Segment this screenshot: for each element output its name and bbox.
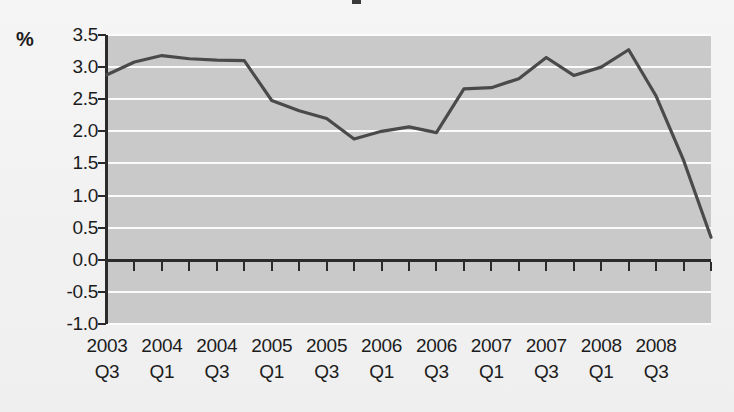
- y-axis-tick-label: -1.0: [66, 313, 98, 335]
- cropped-title-fragment: [352, 0, 361, 4]
- x-axis-tick-labels: 2003Q32004Q12004Q32005Q12005Q32006Q12006…: [107, 333, 711, 403]
- y-axis-tick-mark: [98, 323, 106, 325]
- x-axis-tick-label-year: 2007: [526, 335, 567, 356]
- x-axis-tick-label-year: 2006: [416, 335, 457, 356]
- y-axis-tick-label: 3.0: [72, 56, 98, 78]
- y-axis-tick-mark: [98, 66, 106, 68]
- data-series-line: [107, 50, 711, 238]
- x-axis-tick-label-year: 2007: [471, 335, 512, 356]
- y-axis-tick-mark: [98, 34, 106, 36]
- y-axis-tick-mark: [98, 195, 106, 197]
- x-axis-tick-label-year: 2006: [361, 335, 402, 356]
- x-axis-tick-label-year: 2005: [251, 335, 292, 356]
- x-axis-tick-label-year: 2008: [636, 335, 677, 356]
- x-axis-tick-label-year: 2004: [196, 335, 237, 356]
- x-axis-tick-label-year: 2003: [86, 335, 127, 356]
- y-axis-tick-labels: 3.53.02.52.01.51.00.50.0-0.5-1.0: [28, 35, 98, 324]
- y-axis-tick-mark: [98, 227, 106, 229]
- y-axis-tick-mark: [98, 259, 106, 261]
- y-axis-tick-label: 1.0: [72, 185, 98, 207]
- y-axis-tick-label: -0.5: [66, 281, 98, 303]
- y-axis-tick-label: 2.5: [72, 88, 98, 110]
- plot-area: [107, 35, 711, 324]
- x-axis-tick-label-quarter: Q3: [621, 359, 691, 385]
- x-axis-tick-label-year: 2005: [306, 335, 347, 356]
- x-axis-tick-label-year: 2008: [581, 335, 622, 356]
- y-axis-tick-mark: [98, 291, 106, 293]
- y-axis-tick-label: 1.5: [72, 152, 98, 174]
- x-axis-tick-label: 2008Q3: [621, 333, 691, 385]
- chart-page: % 3.53.02.52.01.51.00.50.0-0.5-1.0 2003Q…: [0, 0, 734, 412]
- x-axis-tick-label-year: 2004: [141, 335, 182, 356]
- y-axis-tick-label: 3.5: [72, 24, 98, 46]
- y-axis-tick-mark: [98, 162, 106, 164]
- series-line-chart: [107, 35, 711, 324]
- y-axis-tick-label: 2.0: [72, 120, 98, 142]
- y-axis-tick-mark: [98, 130, 106, 132]
- y-axis-tick-mark: [98, 98, 106, 100]
- y-axis-tick-label: 0.0: [72, 249, 98, 271]
- y-axis-tick-label: 0.5: [72, 217, 98, 239]
